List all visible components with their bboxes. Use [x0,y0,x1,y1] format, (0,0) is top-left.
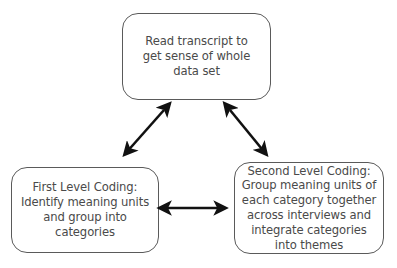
double-arrow-read-second [230,110,266,154]
double-arrow-read-first [125,110,164,154]
arrows-layer [0,0,397,268]
